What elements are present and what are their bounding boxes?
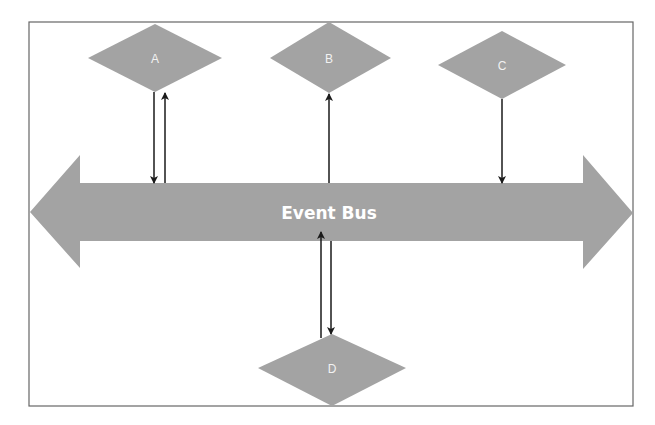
node-b-label: B	[325, 52, 333, 66]
node-c-label: C	[498, 59, 507, 73]
node-a-label: A	[151, 52, 159, 66]
event-bus-diagram: Event Bus A B C D	[0, 0, 655, 425]
event-bus-label: Event Bus	[281, 203, 377, 223]
node-d-label: D	[328, 362, 337, 376]
